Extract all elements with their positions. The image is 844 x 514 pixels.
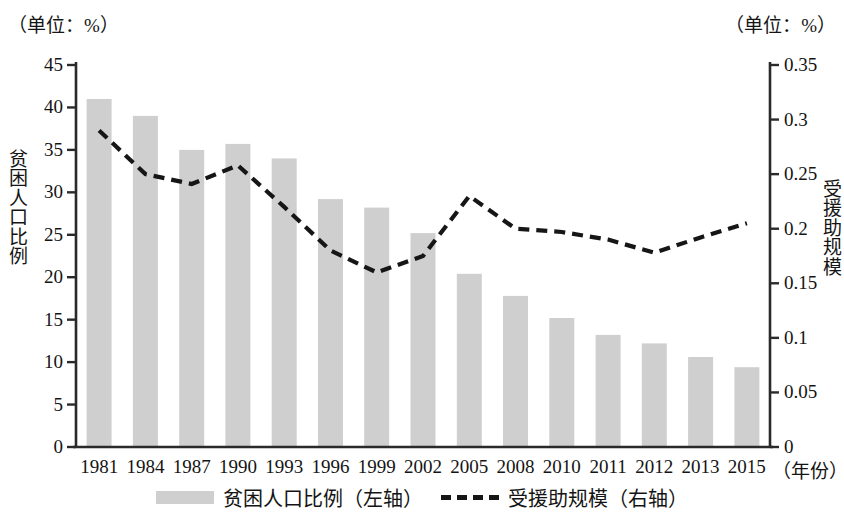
legend-bar-label: 贫困人口比例（左轴） (223, 483, 423, 512)
x-tick-label: 2002 (404, 456, 442, 478)
right-tick-label: 0.25 (784, 163, 817, 185)
bar (272, 158, 297, 447)
bar (87, 99, 112, 447)
x-tick-label: 1990 (219, 456, 257, 478)
bar (411, 233, 436, 447)
bar (596, 335, 621, 447)
right-tick-label: 0.15 (784, 272, 817, 294)
x-tick-label: 2015 (728, 456, 766, 478)
x-tick-label: 2010 (543, 456, 581, 478)
legend-line-swatch-icon (441, 495, 499, 500)
left-tick-label: 30 (44, 181, 63, 203)
bar (734, 367, 759, 447)
bar (133, 116, 158, 447)
x-tick-label: 1999 (358, 456, 396, 478)
chart-legend: 贫困人口比例（左轴） 受援助规模（右轴） (0, 483, 844, 512)
x-tick-label: 1996 (311, 456, 349, 478)
left-tick-label: 0 (54, 436, 64, 458)
left-tick-label: 25 (44, 224, 63, 246)
bar (318, 199, 343, 447)
bar (503, 296, 528, 447)
legend-item-bar: 贫困人口比例（左轴） (156, 483, 423, 512)
x-tick-label: 2005 (450, 456, 488, 478)
legend-line-label: 受援助规模（右轴） (508, 483, 688, 512)
legend-item-line: 受援助规模（右轴） (441, 483, 688, 512)
bar (549, 318, 574, 447)
right-tick-label: 0.3 (784, 109, 808, 131)
bar (225, 144, 250, 447)
bar (457, 274, 482, 447)
right-tick-label: 0.35 (784, 54, 817, 76)
bar (364, 208, 389, 447)
x-tick-label: 2013 (682, 456, 720, 478)
x-tick-label: 1981 (80, 456, 118, 478)
left-tick-label: 45 (44, 54, 63, 76)
right-tick-label: 0 (784, 436, 794, 458)
bar (642, 343, 667, 447)
bar-series (87, 99, 760, 447)
x-tick-label: 2008 (497, 456, 535, 478)
left-tick-label: 10 (44, 351, 63, 373)
bar (179, 150, 204, 447)
plot-canvas (0, 0, 844, 514)
bar (688, 357, 713, 447)
left-tick-label: 35 (44, 139, 63, 161)
left-tick-label: 20 (44, 266, 63, 288)
poverty-aid-chart: （单位：%） （单位：%） 贫困人口比例 受援助规模 （年份） 05101520… (0, 0, 844, 514)
x-tick-label: 1987 (173, 456, 211, 478)
x-tick-label: 1984 (126, 456, 164, 478)
left-tick-label: 40 (44, 96, 63, 118)
x-tick-label: 1993 (265, 456, 303, 478)
legend-bar-swatch-icon (156, 491, 214, 504)
right-tick-label: 0.05 (784, 381, 817, 403)
x-tick-label: 2012 (635, 456, 673, 478)
right-tick-label: 0.2 (784, 218, 808, 240)
right-tick-label: 0.1 (784, 327, 808, 349)
left-tick-label: 15 (44, 309, 63, 331)
x-tick-label: 2011 (589, 456, 626, 478)
left-tick-label: 5 (54, 394, 64, 416)
